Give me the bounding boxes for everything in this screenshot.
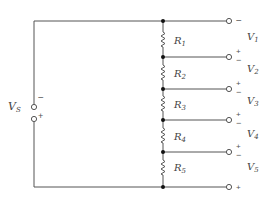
source-minus-sign: − — [38, 92, 44, 103]
resistor-r2 — [161, 57, 165, 89]
output-terminals — [226, 18, 231, 189]
circuit-diagram: − + VS − + − — [0, 0, 272, 203]
resistor-r3 — [161, 89, 165, 120]
output-label-v4: V4 — [247, 128, 259, 141]
terminal-signs: − + − + − + − + − + — [236, 15, 242, 192]
resistor-r4 — [161, 120, 165, 152]
output-label-v1: V1 — [247, 31, 259, 44]
svg-text:−: − — [236, 118, 241, 128]
resistor-ladder — [161, 21, 226, 187]
source-terminals — [31, 104, 36, 121]
svg-text:−: − — [236, 55, 241, 65]
resistor-label-r1: R1 — [173, 35, 186, 48]
resistor-label-r2: R2 — [173, 68, 187, 81]
svg-text:−: − — [236, 87, 241, 97]
output-label-v2: V2 — [247, 63, 259, 76]
svg-text:−: − — [236, 150, 241, 160]
svg-text:+: + — [236, 183, 241, 192]
resistor-label-r3: R3 — [173, 99, 187, 112]
resistor-r1 — [161, 21, 165, 57]
source-terminal-top — [31, 104, 36, 109]
output-labels: V1 V2 V3 V4 V5 — [247, 31, 259, 174]
output-label-v3: V3 — [247, 95, 259, 108]
source-plus-sign: + — [38, 111, 43, 121]
source-wires — [34, 21, 226, 187]
output-label-v5: V5 — [247, 161, 259, 174]
resistor-r5 — [161, 152, 165, 187]
resistor-labels: R1 R2 R3 R4 R5 — [173, 35, 187, 175]
source-terminal-bottom — [31, 116, 36, 121]
source-label: VS — [8, 100, 21, 114]
svg-text:−: − — [236, 15, 242, 26]
resistor-label-r4: R4 — [173, 131, 186, 144]
resistor-label-r5: R5 — [173, 162, 187, 175]
